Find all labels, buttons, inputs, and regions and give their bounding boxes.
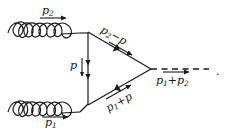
- label-incoming-momentum-p1: p1: [45, 117, 57, 129]
- label-p1-symbol: p: [45, 116, 52, 129]
- label-p2-symbol: p: [42, 4, 49, 17]
- label-p1-subscript: 1: [52, 121, 57, 130]
- label-incoming-momentum-p2: p2: [42, 5, 54, 17]
- trailing-period: .: [216, 66, 220, 77]
- label-out-symbol1: p: [156, 74, 163, 87]
- label-p-symbol: p: [70, 59, 77, 72]
- label-loop-momentum-p: p: [70, 60, 77, 71]
- gluon-top-line: [8, 22, 88, 38]
- diagram-canvas: [0, 0, 226, 136]
- feynman-diagram-figure: p2 p1 p p2−p p1+p p1+p2 .: [0, 0, 226, 136]
- label-out-subscript2: 2: [184, 79, 189, 88]
- gluon-bottom-line: [8, 101, 88, 117]
- loop-propagator-vertical: [85, 32, 90, 105]
- label-out-operator: +: [168, 74, 177, 87]
- label-outgoing-momentum: p1+p2: [156, 75, 189, 87]
- label-p2-subscript: 2: [49, 9, 54, 18]
